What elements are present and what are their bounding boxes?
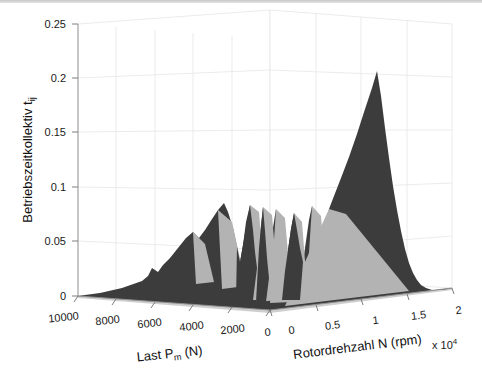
z-axis-title-text: Betriebszeitkollektiv t: [20, 101, 35, 223]
x-tick-label-8000: 8000: [95, 313, 121, 327]
z-axis-title-subscript: ij: [27, 97, 37, 101]
x-axis-title-text: Last P: [136, 346, 174, 365]
y-tick-label-0: 0: [288, 324, 296, 337]
z-axis: [72, 24, 78, 296]
z-tick-label-005: 0.05: [45, 235, 66, 247]
x-tick-label-6000: 6000: [137, 316, 163, 330]
x-tick-label-10000: 10000: [48, 309, 80, 324]
figure-3d-surface-plot: 0.25 0.2 0.15 0.1 0.05 0 10000 8000 6000…: [0, 0, 482, 370]
y-multiplier-exponent: 4: [453, 337, 458, 346]
z-tick-label-015: 0.15: [45, 126, 66, 138]
x-tick-label-4000: 4000: [179, 319, 205, 333]
z-tick-label-000: 0: [60, 290, 66, 302]
z-tick-label-025: 0.25: [45, 18, 66, 30]
z-tick-label-010: 0.1: [51, 181, 66, 193]
x-tick-label-0: 0: [264, 326, 271, 339]
z-tick-label-020: 0.2: [51, 72, 66, 84]
y-tick-label-1: 1: [372, 314, 380, 327]
y-multiplier-base: x 10: [432, 339, 453, 351]
y-tick-label-05: 0.5: [324, 318, 341, 332]
y-axis-title: Rotordrehzahl N (rpm): [292, 331, 422, 362]
x-tick-label-2000: 2000: [220, 322, 246, 336]
z-axis-title: Betriebszeitkollektiv tij: [20, 97, 37, 222]
y-tick-label-2: 2: [455, 304, 463, 317]
y-axis-multiplier: x 104: [432, 337, 458, 351]
scan-artifact-top-edge: [0, 0, 482, 3]
x-axis-title-unit: (N): [184, 343, 204, 360]
x-axis-title: Last Pm (N): [136, 343, 203, 367]
y-tick-label-15: 1.5: [410, 308, 427, 322]
plot-svg: 0.25 0.2 0.15 0.1 0.05 0 10000 8000 6000…: [0, 0, 482, 370]
